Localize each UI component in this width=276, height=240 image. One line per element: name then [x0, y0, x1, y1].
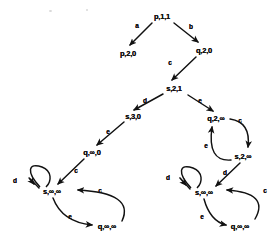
node-q-2-inf: q,2,∞ [207, 114, 224, 123]
edge-path-e-s2inf-q2inf [211, 127, 231, 160]
node-s-inf-inf-left: s,∞,∞ [43, 187, 61, 196]
edge-b-p11-q20-label: b [189, 23, 193, 30]
edge-e-s30-qinf0-label: e [106, 128, 110, 135]
scan-artifact [49, 10, 52, 12]
edge-e-s2inf-q2inf-label: e [204, 142, 208, 149]
edge-path-e-sinfinf-right [204, 199, 226, 225]
edge-d-selfloop-right-label: d [166, 174, 170, 181]
scan-artifact [86, 9, 88, 11]
node-q-inf-inf-right: q,∞,∞ [231, 222, 249, 231]
node-s-2-1: s,2,1 [166, 84, 182, 93]
edge-path-c-qinfinf-right [227, 190, 259, 219]
edge-d-s2inf-sinfinf-label: d [223, 169, 227, 176]
edge-path-b-p11-q20 [174, 23, 198, 42]
node-q-inf-inf-left: q,∞,∞ [98, 222, 116, 231]
node-q-inf-0: q,∞,0 [83, 148, 100, 157]
edge-path-d-s21-s30 [134, 94, 163, 110]
edge-c-qinf0-sinfinf-label: c [74, 167, 78, 174]
edge-path-e-s30-qinf0 [97, 122, 124, 145]
edge-c-q2inf-s2inf-label: c [238, 117, 242, 124]
node-s-inf-inf-right: s,∞,∞ [195, 188, 213, 197]
edge-c-q20-s21-label: c [168, 59, 172, 66]
edge-path-d-s2inf-sinfinf [216, 163, 240, 186]
node-s-3-0: s,3,0 [125, 112, 141, 121]
edge-c-qinfinf-sinfinf-right-label: c [263, 187, 267, 194]
edge-path-c-qinf0-sinfinf [58, 159, 84, 184]
edge-d-s21-s30-label: d [143, 97, 147, 104]
edge-path-e-sinfinf-left [53, 198, 92, 225]
edge-c-qinfinf-sinfinf-left-label: c [98, 187, 102, 194]
node-q-2-0: q,2,0 [196, 46, 212, 55]
edge-arc-d-selfloop-right [181, 167, 201, 188]
node-p-2-0: p,2,0 [120, 49, 136, 58]
edge-a-p11-p20-label: a [135, 22, 139, 29]
edge-e-sinfinf-qinfinf-right-label: e [200, 213, 204, 220]
edge-e-sinfinf-qinfinf-left-label: e [68, 213, 72, 220]
edge-e-s21-q2inf-label: e [198, 97, 202, 104]
edge-path-a-p11-p20 [130, 23, 152, 45]
edge-d-selfloop-left-label: d [13, 177, 17, 184]
node-p-1-1: p,1,1 [154, 12, 170, 21]
edge-path-c-q20-s21 [172, 57, 196, 80]
node-s-2-inf: s,2,∞ [235, 152, 252, 161]
edge-path-c-qinfinf-left [78, 190, 124, 221]
